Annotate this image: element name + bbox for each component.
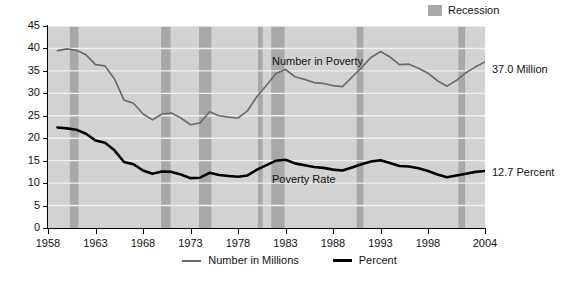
x-axis-tick-label: 1988 xyxy=(311,237,355,249)
plot-area xyxy=(48,26,485,228)
legend-line-number-icon xyxy=(182,260,201,262)
x-axis-tick-label: 1968 xyxy=(121,237,165,249)
x-axis-line xyxy=(47,228,486,229)
chart-canvas xyxy=(48,26,485,228)
x-axis-tick xyxy=(333,229,334,234)
y-axis-tick-label: 25 xyxy=(0,110,40,121)
x-axis-tick-label: 1983 xyxy=(264,237,308,249)
poverty-chart-figure: Recession 051015202530354045 19581963196… xyxy=(0,0,579,282)
x-axis-tick-label: 1963 xyxy=(74,237,118,249)
x-axis-tick-label: 1973 xyxy=(169,237,213,249)
x-axis-tick xyxy=(238,229,239,234)
x-axis-tick-label: 1998 xyxy=(406,237,450,249)
x-axis-tick xyxy=(191,229,192,234)
y-axis-tick-label: 35 xyxy=(0,65,40,76)
series-legend: Number in Millions Percent xyxy=(0,255,579,266)
end-label-poverty-rate: 12.7 Percent xyxy=(492,167,554,178)
legend-item-percent: Percent xyxy=(333,255,397,266)
legend-line-percent-icon xyxy=(333,259,352,262)
recession-swatch-icon xyxy=(428,5,442,16)
x-axis-tick xyxy=(485,229,486,234)
recession-band xyxy=(199,26,211,228)
annotation-poverty-rate: Poverty Rate xyxy=(272,174,336,185)
y-axis-tick-label: 15 xyxy=(0,155,40,166)
legend-label-number-in-millions: Number in Millions xyxy=(208,255,298,266)
recession-band xyxy=(458,26,465,228)
x-axis-tick-label: 2004 xyxy=(463,237,507,249)
x-axis-tick-label: 1993 xyxy=(359,237,403,249)
y-axis-tick-label: 30 xyxy=(0,87,40,98)
x-axis-tick xyxy=(143,229,144,234)
y-axis-tick-label: 45 xyxy=(0,20,40,31)
recession-band xyxy=(70,26,79,228)
x-axis-tick xyxy=(286,229,287,234)
x-axis-tick xyxy=(96,229,97,234)
x-axis-tick xyxy=(48,229,49,234)
y-axis-tick-label: 10 xyxy=(0,177,40,188)
recession-band xyxy=(258,26,263,228)
x-axis-tick xyxy=(381,229,382,234)
y-axis-tick-label: 40 xyxy=(0,42,40,53)
y-axis-line xyxy=(47,25,48,229)
y-axis-tick-label: 5 xyxy=(0,200,40,211)
recession-band xyxy=(161,26,171,228)
recession-legend-label: Recession xyxy=(448,5,499,16)
legend-item-number-in-millions: Number in Millions xyxy=(182,255,298,266)
x-axis-tick-label: 1958 xyxy=(26,237,70,249)
y-axis-tick-label: 0 xyxy=(0,222,40,233)
legend-label-percent: Percent xyxy=(359,255,397,266)
end-label-number-in-poverty: 37.0 Million xyxy=(492,64,548,75)
x-axis-tick-label: 1978 xyxy=(216,237,260,249)
y-axis-tick-label: 20 xyxy=(0,132,40,143)
x-axis-tick xyxy=(428,229,429,234)
recession-legend-key: Recession xyxy=(428,5,499,16)
annotation-number-in-poverty: Number in Poverty xyxy=(272,56,363,67)
